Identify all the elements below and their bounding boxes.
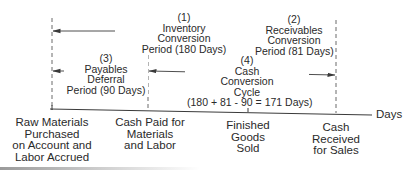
receivables-period-label: (2) Receivables Conversion Period (81 Da… [253,14,335,56]
axis-unit-label: Days [376,108,402,120]
event-finished-goods-sold: Finished Goods Sold [220,120,276,155]
event-cash-received: Cash Received for Sales [308,122,364,157]
cash-conversion-cycle-label: (4) Cash Conversion Cycle (180 + 81 - 90… [185,55,309,108]
time-axis [50,109,372,115]
payables-period-label: (3) Payables Deferral Period (90 Days) [64,53,148,95]
event-raw-materials-purchased: Raw Materials Purchased on Account and L… [4,117,100,163]
bottom-shadow-bar [0,167,200,170]
inventory-period-label: (1) Inventory Conversion Period (180 Day… [115,12,253,54]
event-cash-paid: Cash Paid for Materials and Labor [110,117,190,152]
